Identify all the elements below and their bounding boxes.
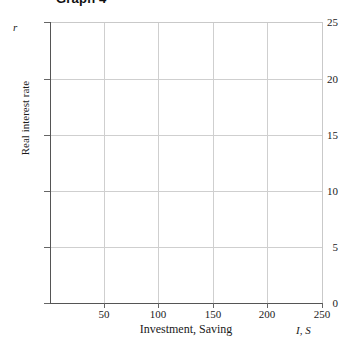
- x-axis-title: Investment, Saving: [106, 323, 266, 336]
- y-axis-title: Real interest rate: [19, 38, 31, 198]
- y-tick-25: [44, 22, 50, 23]
- y-axis-symbol: r: [13, 22, 17, 33]
- gridline-horizontal-10: [50, 191, 322, 192]
- gridline-vertical-200: [267, 22, 268, 303]
- y-tick-15: [44, 135, 50, 136]
- plot-area: [50, 22, 322, 303]
- x-axis-line: [50, 303, 323, 304]
- x-axis-symbol: I, S: [296, 324, 311, 336]
- gridline-horizontal-15: [50, 135, 322, 136]
- gridline-vertical-50: [104, 22, 105, 303]
- gridline-horizontal-20: [50, 79, 322, 80]
- y-tick-0: [44, 303, 50, 304]
- y-tick-label-20: 20: [298, 74, 338, 85]
- x-tick-label-250: 250: [297, 308, 343, 320]
- y-tick-label-15: 15: [298, 130, 338, 141]
- x-tick-label-100: 100: [133, 308, 183, 320]
- y-tick-5: [44, 247, 50, 248]
- plot-frame-top: [50, 22, 323, 23]
- y-axis-line: [50, 22, 51, 304]
- x-tick-label-50: 50: [79, 308, 129, 320]
- x-tick-label-150: 150: [188, 308, 238, 320]
- y-tick-label-25: 25: [298, 17, 338, 28]
- gridline-horizontal-5: [50, 247, 322, 248]
- gridline-vertical-150: [213, 22, 214, 303]
- y-tick-10: [44, 191, 50, 192]
- y-tick-label-5: 5: [298, 242, 338, 253]
- figure-title: Graph 4: [56, 0, 107, 6]
- plot-frame-right: [322, 22, 323, 304]
- x-tick-label-200: 200: [242, 308, 292, 320]
- y-tick-label-10: 10: [298, 186, 338, 197]
- gridline-vertical-100: [158, 22, 159, 303]
- y-tick-20: [44, 79, 50, 80]
